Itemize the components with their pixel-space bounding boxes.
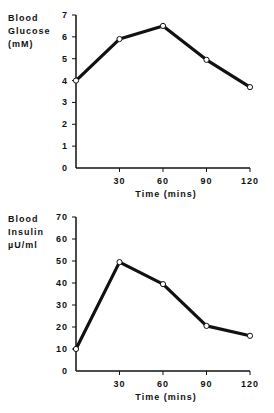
- x-tick-label: 120: [241, 379, 259, 389]
- data-point: [73, 346, 78, 351]
- x-tick-label: 60: [157, 176, 169, 186]
- y-tick-label: 70: [56, 212, 68, 222]
- y-tick-label: 2: [62, 119, 68, 129]
- x-tick-label: 30: [113, 379, 125, 389]
- y-tick-label: 7: [62, 10, 68, 20]
- data-point: [247, 85, 252, 90]
- charts-canvas: 01234567306090120Time (mins)010203040506…: [0, 0, 274, 413]
- y-tick-label: 0: [62, 163, 68, 173]
- y-tick-label: 30: [56, 300, 68, 310]
- data-point: [117, 36, 122, 41]
- y-tick-label: 4: [62, 76, 68, 86]
- y-tick-label: 3: [62, 97, 68, 107]
- y-tick-label: 20: [56, 322, 68, 332]
- data-point: [204, 323, 209, 328]
- y-tick-label: 10: [56, 344, 68, 354]
- data-point: [73, 78, 78, 83]
- x-axis-label: Time (mins): [135, 392, 196, 402]
- insulin-chart: 010203040506070306090120Time (mins): [56, 212, 259, 402]
- data-point: [117, 260, 122, 265]
- y-tick-label: 5: [62, 54, 68, 64]
- x-tick-label: 120: [241, 176, 259, 186]
- x-tick-label: 30: [113, 176, 125, 186]
- data-point: [160, 23, 165, 28]
- y-tick-label: 6: [62, 32, 68, 42]
- x-tick-label: 60: [157, 379, 169, 389]
- x-axis-label: Time (mins): [135, 189, 196, 199]
- x-tick-label: 90: [200, 176, 212, 186]
- y-tick-label: 0: [62, 366, 68, 376]
- series-line: [76, 26, 250, 87]
- y-tick-label: 60: [56, 234, 68, 244]
- data-point: [160, 282, 165, 287]
- glucose-chart: 01234567306090120Time (mins): [62, 10, 259, 199]
- y-tick-label: 1: [62, 141, 68, 151]
- data-point: [247, 333, 252, 338]
- y-tick-label: 40: [56, 278, 68, 288]
- y-tick-label: 50: [56, 256, 68, 266]
- series-line: [76, 262, 250, 349]
- x-tick-label: 90: [200, 379, 212, 389]
- data-point: [204, 57, 209, 62]
